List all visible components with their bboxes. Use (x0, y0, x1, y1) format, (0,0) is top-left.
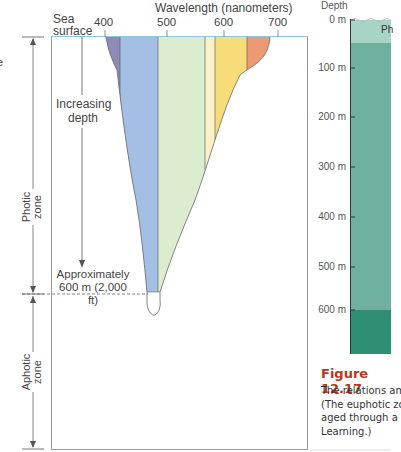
depth-header: Depth (321, 0, 348, 11)
figure-caption: The relations am (The euphotic zo aged t… (321, 384, 401, 438)
aphotic-zone-label: Aphotic zone (21, 352, 45, 392)
depth-tick-400m: 400 m (306, 211, 346, 222)
zone-label-partial: Ph (381, 24, 393, 35)
sea-surface-label: Sea surface (53, 13, 92, 37)
tick-700: 700 (268, 16, 287, 28)
right-panel-mid-water (351, 20, 391, 310)
cut-off-text: e (0, 56, 3, 68)
tick-400: 400 (94, 16, 113, 28)
axis-title: Wavelength (nanometers) (155, 1, 293, 15)
depth-tick-100m: 100 m (306, 62, 346, 73)
depth-tick-200m: 200 m (306, 111, 346, 122)
right-panel-deep-water (351, 310, 391, 354)
depth-tick-300m: 300 m (306, 161, 346, 172)
depth-tick-600m: 600 m (306, 304, 346, 315)
depth-tick-500m: 500 m (306, 261, 346, 272)
tick-600: 600 (214, 16, 233, 28)
increasing-depth-label: Increasing depth (56, 97, 110, 125)
depth-tick-0m: 0 m (306, 14, 346, 25)
approx-600m-label: Approximately 600 m (2,000 ft) (55, 268, 131, 307)
tick-500: 500 (157, 16, 176, 28)
photic-zone-label: Photic zone (21, 189, 45, 225)
